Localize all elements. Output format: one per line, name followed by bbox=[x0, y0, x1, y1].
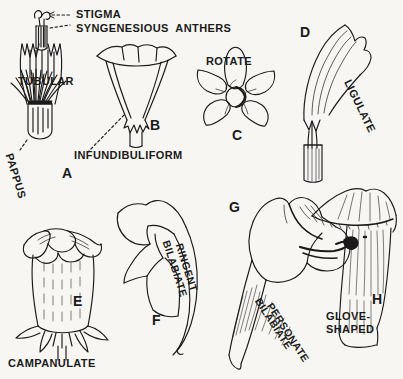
figure-c-term: ROTATE bbox=[206, 56, 252, 68]
figure-a-letter: A bbox=[62, 166, 72, 181]
figure-e-letter: E bbox=[73, 294, 82, 309]
figure-g-letter: G bbox=[229, 200, 240, 215]
figure-b-letter: B bbox=[150, 118, 160, 133]
figure-h-term-line1: GLOVE- bbox=[326, 311, 371, 323]
figure-a-term: TUBULAR bbox=[18, 76, 74, 88]
figure-h-letter: H bbox=[372, 292, 382, 307]
figure-c-letter: C bbox=[232, 128, 242, 143]
figure-h-term-line2: SHAPED bbox=[326, 324, 374, 336]
callout-stigma: STIGMA bbox=[76, 9, 121, 21]
figure-f-letter: F bbox=[152, 313, 161, 328]
callout-syngenesious-anthers: SYNGENESIOUS ANTHERS bbox=[76, 23, 231, 35]
figure-b-term: INFUNDIBULIFORM bbox=[74, 150, 183, 162]
botanical-plate: STIGMA SYNGENESIOUS ANTHERS PAPPUS TUBUL… bbox=[0, 0, 403, 379]
figure-d-letter: D bbox=[300, 25, 310, 40]
figure-e-term: CAMPANULATE bbox=[8, 358, 96, 370]
